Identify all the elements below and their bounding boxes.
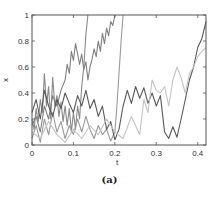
y-tick-label: 0.6 [18,63,30,72]
x-tick-label: 0.3 [151,149,163,158]
y-tick-label: 1 [25,11,30,20]
stochastic-paths-chart: 00.10.20.30.4 00.20.40.60.81 t x [0,0,219,198]
x-tick-label: 0.4 [192,149,204,158]
figure-caption: (a) [0,174,219,185]
x-tick-label: 0.1 [68,149,80,158]
y-tick-label: 0.8 [18,37,30,46]
y-tick-label: 0.4 [18,89,30,98]
y-axis-label: x [1,78,10,82]
x-tick-label: 0 [30,149,35,158]
series-line-1 [32,15,88,132]
x-axis-ticks: 00.10.20.30.4 [30,15,204,158]
series-layer [32,15,206,142]
x-tick-label: 0.2 [109,149,121,158]
y-tick-label: 0.2 [18,115,30,124]
y-tick-label: 0 [25,141,30,150]
x-axis-label: t [116,158,119,167]
